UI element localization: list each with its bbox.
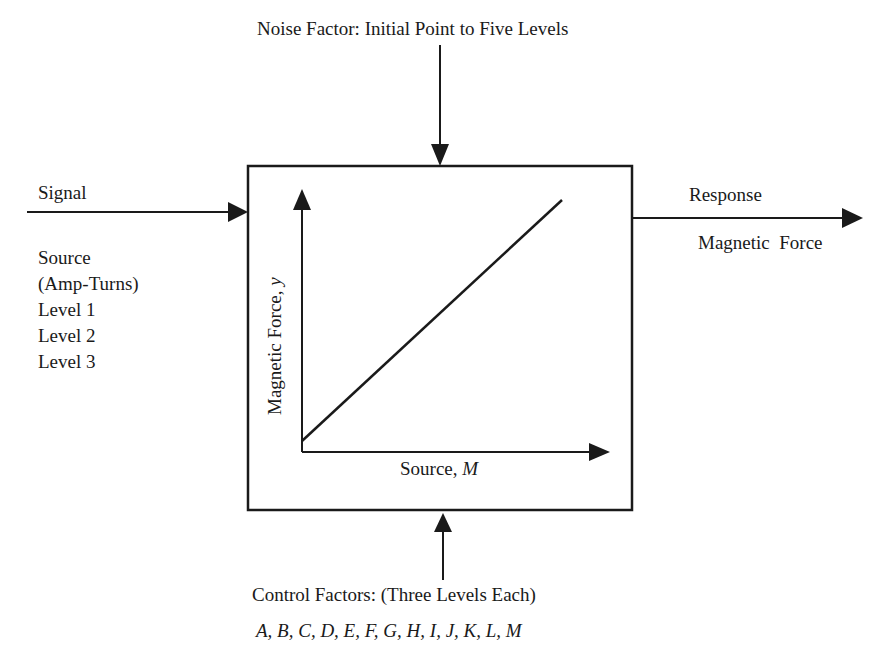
noise-factor-label: Noise Factor: Initial Point to Five Leve… xyxy=(257,18,568,40)
signal-line-units: (Amp-Turns) xyxy=(38,271,139,297)
inner-plot-response-line xyxy=(302,200,562,441)
signal-details: Source (Amp-Turns) Level 1 Level 2 Level… xyxy=(38,245,139,375)
inner-plot-y-axis xyxy=(293,189,311,452)
x-label-text: Source, xyxy=(400,458,462,479)
signal-label: Signal xyxy=(38,182,87,204)
y-label-var: y xyxy=(264,277,285,285)
signal-line-source: Source xyxy=(38,245,139,271)
noise-arrow xyxy=(431,45,449,166)
inner-plot-y-label: Magnetic Force, y xyxy=(264,277,286,415)
response-subtitle: Magnetic Force xyxy=(698,232,823,254)
control-factors-label: Control Factors: (Three Levels Each) xyxy=(252,584,536,606)
x-label-var: M xyxy=(462,458,478,479)
signal-line-level-2: Level 2 xyxy=(38,323,139,349)
control-arrow xyxy=(434,513,452,580)
response-label: Response xyxy=(689,184,762,206)
y-label-text: Magnetic Force, xyxy=(264,286,285,415)
signal-arrow xyxy=(27,202,248,222)
signal-line-level-1: Level 1 xyxy=(38,297,139,323)
signal-line-level-3: Level 3 xyxy=(38,349,139,375)
control-factors-list: A, B, C, D, E, F, G, H, I, J, K, L, M xyxy=(256,620,522,642)
inner-plot-x-label: Source, M xyxy=(400,458,478,480)
response-arrow xyxy=(632,208,863,228)
